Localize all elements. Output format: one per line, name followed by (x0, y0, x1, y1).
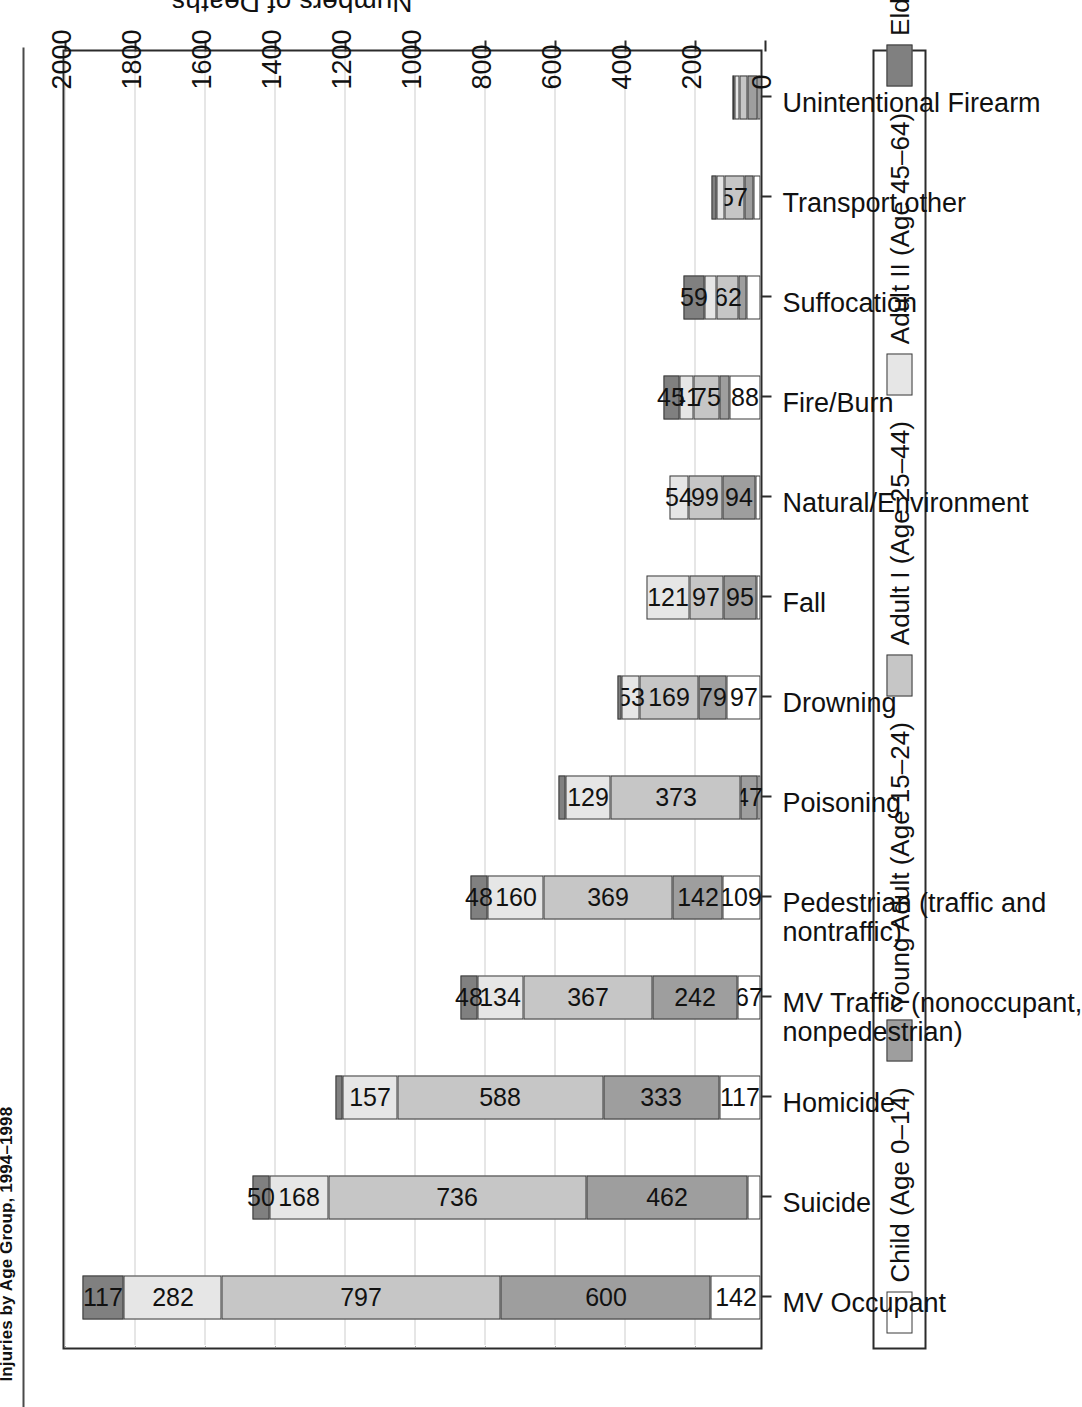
y-axis-tick-label: 800 (467, 44, 498, 89)
bar-segment[interactable]: 67 (737, 975, 760, 1019)
bar-segment[interactable] (739, 75, 747, 119)
y-axis-tick-label: 0 (747, 74, 778, 89)
bar-segment[interactable]: 282 (123, 1275, 222, 1319)
bar-segment-value: 117 (82, 1285, 122, 1310)
y-axis-tick-label: 1800 (117, 29, 148, 89)
bar-segment[interactable]: 129 (565, 775, 610, 819)
bar-segment[interactable]: 588 (397, 1075, 603, 1119)
bar-segment[interactable] (716, 175, 723, 219)
bar-segment[interactable]: 373 (610, 775, 741, 819)
bar-segment[interactable]: 157 (342, 1075, 397, 1119)
bar-segment[interactable]: 109 (722, 875, 760, 919)
bar-segment-value: 588 (479, 1085, 521, 1110)
bar-segment-value: 142 (676, 885, 718, 910)
x-axis-category-label: Unintentional Firearm (782, 88, 1040, 117)
bar-segment-value: 59 (679, 285, 707, 310)
bar-stack[interactable]: 977916953 (617, 675, 760, 719)
bar-segment[interactable]: 57 (724, 175, 744, 219)
bar-segment[interactable]: 117 (719, 1075, 760, 1119)
bar-segment[interactable]: 79 (698, 675, 726, 719)
bar-stack[interactable]: 6259 (683, 275, 760, 319)
bar-segment-value: 462 (646, 1185, 688, 1210)
bar-stack[interactable]: 142600797282117 (82, 1275, 760, 1319)
bar-stack[interactable]: 57 (711, 175, 760, 219)
x-axis-category-label: Homicide (782, 1088, 895, 1117)
bar-segment[interactable]: 142 (710, 1275, 760, 1319)
bar-segment[interactable]: 367 (523, 975, 651, 1019)
bar-segment-value: 79 (698, 685, 726, 710)
bar-segment[interactable]: 242 (652, 975, 737, 1019)
bar-segment-value: 54 (664, 485, 692, 510)
bar-segment[interactable] (617, 675, 621, 719)
bar-segment-value: 373 (654, 785, 696, 810)
legend-item[interactable]: Adult I (Age 25–44) (884, 421, 915, 696)
bar-segment[interactable]: 797 (221, 1275, 500, 1319)
bar-segment[interactable] (732, 75, 734, 119)
x-axis-category-label: MV Occupant (782, 1288, 946, 1317)
bar-segment[interactable] (558, 775, 564, 819)
bar-segment[interactable]: 134 (477, 975, 524, 1019)
bar-segment[interactable] (755, 475, 760, 519)
bar-segment[interactable]: 95 (723, 575, 756, 619)
bar-segment[interactable] (711, 175, 716, 219)
bar-segment-value: 109 (720, 885, 762, 910)
bar-segment[interactable]: 59 (683, 275, 704, 319)
bar-segment[interactable]: 736 (328, 1175, 586, 1219)
bar-segment-value: 117 (720, 1085, 760, 1110)
bar-segment[interactable]: 62 (716, 275, 738, 319)
y-axis-tick-label: 1000 (397, 29, 428, 89)
x-axis-category-label: Natural/Environment (782, 488, 1028, 517)
x-axis-category-label: Poisoning (782, 788, 901, 817)
bar-segment[interactable]: 45 (663, 375, 679, 419)
bar-stack[interactable]: 949954 (669, 475, 760, 519)
bar-segment[interactable]: 168 (269, 1175, 328, 1219)
x-axis-tick (760, 195, 771, 197)
bar-segment[interactable]: 142 (672, 875, 722, 919)
bar-segment[interactable]: 48 (470, 875, 487, 919)
x-axis-category-label: Suicide (782, 1188, 871, 1217)
bar-segment[interactable]: 462 (586, 1175, 748, 1219)
bar-segment-value: 121 (647, 585, 689, 610)
bar-segment[interactable]: 47 (740, 775, 756, 819)
bar-segment[interactable] (747, 1175, 760, 1219)
bar-segment[interactable]: 53 (621, 675, 640, 719)
legend-label: Young Adult (Age 15–24) (884, 722, 915, 1010)
bar-segment[interactable]: 121 (646, 575, 688, 619)
bar-stack[interactable]: 47373129 (558, 775, 760, 819)
bar-segment[interactable]: 54 (669, 475, 688, 519)
bar-segment[interactable]: 169 (639, 675, 698, 719)
bar-segment[interactable] (753, 175, 760, 219)
bar-segment[interactable]: 97 (726, 675, 760, 719)
bar-segment[interactable] (746, 275, 760, 319)
bar-segment[interactable] (335, 1075, 341, 1119)
bar-segment[interactable]: 48 (460, 975, 477, 1019)
legend-item[interactable]: Adult II (Age 45–64) (884, 112, 915, 394)
bar-segment-value: 369 (587, 885, 629, 910)
bar-segment[interactable]: 333 (603, 1075, 720, 1119)
bar-stack[interactable]: 9597121 (646, 575, 760, 619)
gridline (204, 51, 205, 1347)
bar-stack[interactable]: 117333588157 (335, 1075, 760, 1119)
x-axis-tick (760, 495, 771, 497)
page-title: Injuries by Age Group, 1994–1998 (0, 1106, 16, 1381)
bar-segment-value: 333 (640, 1085, 682, 1110)
x-axis-category-label: MV Traffic (nonoccupant, nonpedestrian) (782, 988, 1082, 1046)
bar-segment[interactable]: 50 (252, 1175, 270, 1219)
bar-segment[interactable]: 94 (722, 475, 755, 519)
bar-segment[interactable]: 600 (500, 1275, 710, 1319)
bar-stack[interactable]: 46273616850 (252, 1175, 760, 1219)
bar-segment[interactable]: 117 (82, 1275, 123, 1319)
bar-segment[interactable]: 97 (689, 575, 723, 619)
y-axis-tick-label: 1200 (327, 29, 358, 89)
gridline (554, 51, 555, 1347)
bar-segment-value: 157 (348, 1085, 390, 1110)
bar-segment[interactable]: 88 (729, 375, 760, 419)
bar-segment[interactable]: 369 (543, 875, 672, 919)
bar-stack[interactable]: 88754145 (663, 375, 760, 419)
bar-segment[interactable]: 160 (487, 875, 543, 919)
bar-segment[interactable] (756, 575, 760, 619)
bar-segment[interactable] (734, 75, 739, 119)
legend-item[interactable]: Elder (Age 65+) (884, 0, 915, 86)
bar-stack[interactable]: 6724236713448 (460, 975, 760, 1019)
bar-stack[interactable]: 10914236916048 (470, 875, 760, 919)
